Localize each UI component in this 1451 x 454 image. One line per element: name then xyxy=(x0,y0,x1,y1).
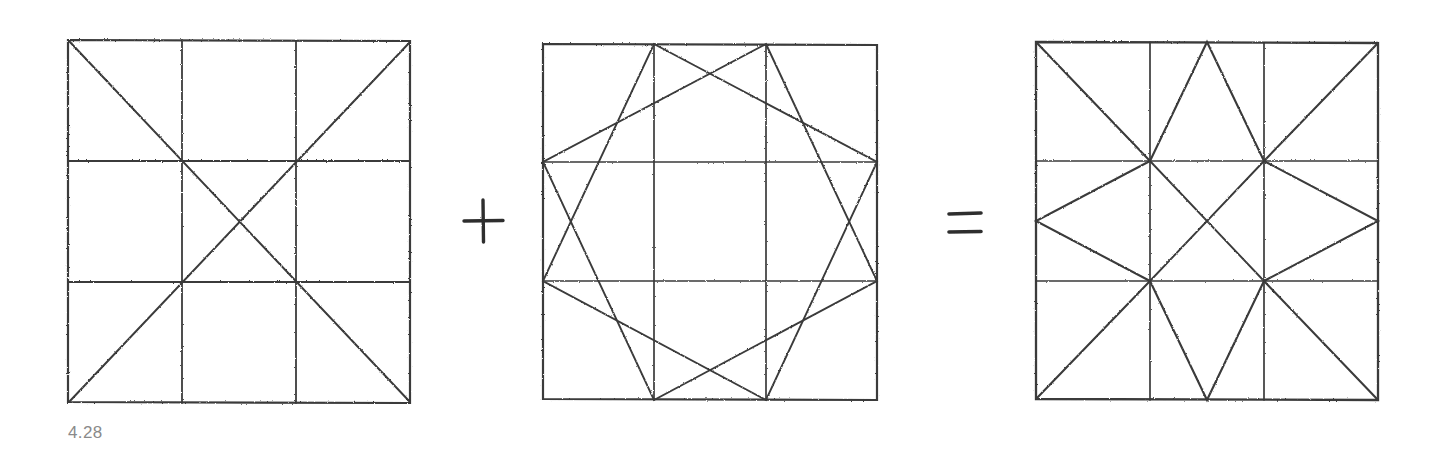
vertical-grid-lines xyxy=(654,44,766,400)
equals-operator xyxy=(938,198,992,248)
plus-operator xyxy=(458,193,508,249)
center-cross xyxy=(1150,161,1264,281)
eight-pointed-star-polygon xyxy=(543,44,877,400)
panel-base-grid-with-diagonals xyxy=(58,30,422,416)
figure-caption: 4.28 xyxy=(68,423,103,443)
panel-eight-point-star-overlay xyxy=(533,34,889,414)
figure-root: 4.28 xyxy=(0,0,1451,454)
horizontal-grid-lines xyxy=(543,162,877,281)
outer-square xyxy=(543,44,877,400)
panel-resulting-star-pattern xyxy=(1026,32,1390,414)
